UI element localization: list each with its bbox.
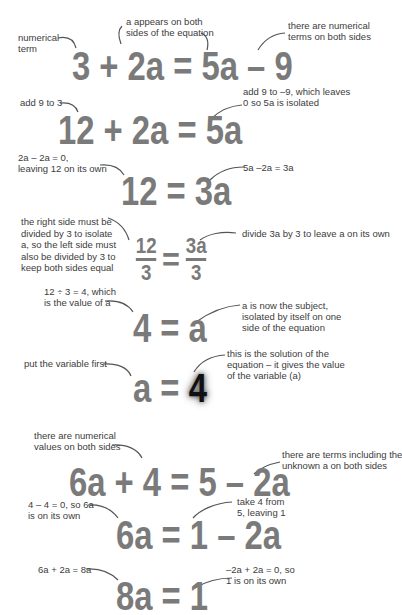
note-minus-2a: –2a + 2a = 0, so 1 is on its own (226, 564, 295, 586)
note-5a-minus-2a: 5a –2a = 3a (243, 162, 293, 173)
denominator: 3 (141, 263, 151, 283)
note-line: of the variable (a) (227, 370, 345, 381)
note-add-9-to-minus-9: add 9 to –9, which leaves 0 so 5a is iso… (243, 86, 350, 108)
note-line: 4 – 4 = 0, so 6a (28, 499, 94, 510)
note-divide-3a: divide 3a by 3 to leave a on its own (242, 228, 390, 239)
note-line: there are terms including the (282, 449, 402, 460)
equation-4-fraction: 12 3 = 3a 3 (134, 236, 209, 283)
note-line: sides of the equation (126, 27, 214, 38)
note-line: take 4 from (237, 496, 286, 507)
equation-2: 12 + 2a = 5a (58, 108, 242, 152)
note-variable-first: put the variable first (24, 358, 107, 369)
note-line: values on both sides (34, 441, 121, 452)
note-line: is on its own (28, 510, 94, 521)
equation-6: a = 4 (133, 366, 207, 410)
equals-sign: = (162, 240, 180, 279)
note-line: this is the solution of the (227, 348, 345, 359)
note-line: 5a –2a = 3a (243, 162, 293, 173)
note-line: a is now the subject, (242, 300, 341, 311)
note-line: 6a + 2a = 8a (38, 564, 91, 575)
note-line: 2a – 2a = 0, (18, 152, 107, 163)
note-numerical-values: there are numerical values on both sides (34, 430, 121, 452)
note-line: divide 3a by 3 to leave a on its own (242, 228, 390, 239)
note-line: leaving 12 on its own (18, 163, 107, 174)
equation-left: a = (133, 366, 189, 410)
fraction-right: 3a 3 (186, 236, 207, 283)
note-a-both-sides: a appears on both sides of the equation (126, 16, 214, 38)
note-line: add 9 to –9, which leaves (243, 86, 350, 97)
numerator: 3a (186, 236, 207, 256)
note-terms-unknown: there are terms including the unknown a … (282, 449, 402, 471)
note-line: 12 ÷ 3 = 4, which (44, 286, 116, 297)
note-line: side of the equation (242, 322, 341, 333)
equation-3: 12 = 3a (121, 169, 231, 213)
denominator: 3 (191, 263, 201, 283)
note-line: a, so the left side must (21, 239, 116, 251)
note-line: is the value of a (44, 297, 116, 308)
note-line: term (18, 43, 59, 54)
equation-1: 3 + 2a = 5a – 9 (72, 44, 293, 88)
note-line: equation – it gives the value (227, 359, 345, 370)
note-line: unknown a on both sides (282, 460, 402, 471)
note-line: the right side must be (21, 216, 116, 228)
note-line: add 9 to 3 (20, 97, 62, 108)
solution-value-highlight: 4 (189, 366, 207, 410)
equation-5: 4 = a (133, 306, 207, 350)
note-line: 0 so 5a is isolated (243, 97, 350, 108)
fraction-left: 12 3 (136, 236, 157, 283)
equation-9: 8a = 1 (116, 574, 208, 615)
note-line: there are numerical (34, 430, 121, 441)
note-2a-minus-2a: 2a – 2a = 0, leaving 12 on its own (18, 152, 107, 174)
note-line: divided by 3 to isolate (21, 228, 116, 240)
note-4-minus-4: 4 – 4 = 0, so 6a is on its own (28, 499, 94, 521)
note-right-side-divided: the right side must be divided by 3 to i… (21, 216, 116, 274)
note-line: also be divided by 3 to (21, 251, 116, 263)
note-a-subject: a is now the subject, isolated by itself… (242, 300, 341, 333)
numerator: 12 (136, 236, 157, 256)
note-numerical-term: numerical term (18, 32, 59, 54)
note-line: –2a + 2a = 0, so (226, 564, 295, 575)
note-line: numerical (18, 32, 59, 43)
note-6a-plus-2a: 6a + 2a = 8a (38, 564, 91, 575)
note-add-9-to-3: add 9 to 3 (20, 97, 62, 108)
note-line: keep both sides equal (21, 262, 116, 274)
note-line: there are numerical (288, 20, 371, 31)
note-numerical-both-sides: there are numerical terms on both sides (288, 20, 371, 42)
note-line: isolated by itself on one (242, 311, 341, 322)
note-line: terms on both sides (288, 31, 371, 42)
note-12-div-3: 12 ÷ 3 = 4, which is the value of a (44, 286, 116, 308)
note-solution: this is the solution of the equation – i… (227, 348, 345, 381)
note-line: a appears on both (126, 16, 214, 27)
note-line: put the variable first (24, 358, 107, 369)
note-line: 1 is on its own (226, 575, 295, 586)
equation-8: 6a = 1 – 2a (116, 513, 281, 557)
